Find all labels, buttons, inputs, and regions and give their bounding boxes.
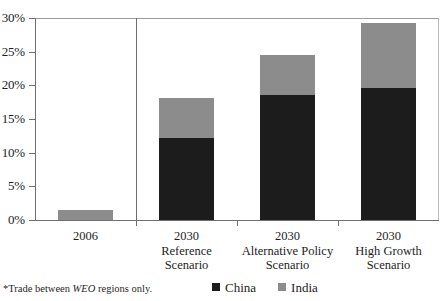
- x-axis-category-label: 2030High GrowthScenario: [323, 229, 446, 273]
- bar-segment-china: [260, 95, 315, 220]
- y-axis-label: 20%: [0, 78, 25, 91]
- bar-3: [361, 23, 416, 220]
- scenario-divider: [136, 18, 137, 220]
- legend-swatch-india: [278, 283, 286, 291]
- x-axis-tick: [338, 220, 339, 226]
- legend-label-china: China: [225, 281, 256, 294]
- y-axis-tick: [29, 18, 35, 19]
- y-axis-label: 0%: [0, 213, 25, 226]
- legend-item-india: India: [278, 281, 318, 294]
- bar-2: [260, 55, 315, 220]
- bar-segment-india: [260, 55, 315, 95]
- x-category-line: 2030: [275, 229, 300, 243]
- footnote-suffix: regions only.: [95, 283, 152, 294]
- x-axis-tick: [136, 220, 137, 226]
- y-axis-tick: [29, 153, 35, 154]
- bar-segment-china: [361, 88, 416, 220]
- footnote: *Trade between WEO regions only.: [3, 283, 152, 295]
- bar-segment-india: [58, 210, 113, 220]
- chart-figure: 0%5%10%15%20%25%30% 20062030ReferenceSce…: [0, 0, 446, 301]
- legend-item-china: China: [212, 281, 256, 294]
- bar-segment-india: [159, 98, 214, 138]
- y-axis-label: 15%: [0, 112, 25, 125]
- plot-right-rule: [438, 18, 439, 220]
- y-axis-tick: [29, 220, 35, 221]
- y-axis-tick: [29, 85, 35, 86]
- x-category-line: 2030: [376, 229, 401, 243]
- y-axis-tick: [29, 186, 35, 187]
- bar-1: [159, 98, 214, 220]
- legend-swatch-china: [212, 283, 220, 291]
- x-category-line: Scenario: [323, 258, 446, 273]
- x-category-line: 2006: [73, 229, 98, 243]
- legend-label-india: India: [291, 281, 318, 294]
- plot-area: 0%5%10%15%20%25%30%: [35, 18, 439, 220]
- bar-segment-india: [361, 23, 416, 88]
- bar-0: [58, 210, 113, 220]
- footnote-italic-term: WEO: [73, 283, 96, 294]
- x-category-line: High Growth: [323, 244, 446, 259]
- y-axis-label: 25%: [0, 45, 25, 58]
- y-axis-label: 10%: [0, 146, 25, 159]
- bar-segment-china: [159, 138, 214, 220]
- y-axis-tick: [29, 52, 35, 53]
- chart-legend: China India: [212, 279, 318, 295]
- x-category-line: 2030: [174, 229, 199, 243]
- footnote-prefix: *Trade between: [3, 283, 73, 294]
- y-axis-label: 5%: [0, 179, 25, 192]
- plot-top-rule: [35, 18, 439, 19]
- y-axis-tick: [29, 119, 35, 120]
- clipped-title: [0, 0, 446, 2]
- y-axis-line: [35, 18, 36, 220]
- y-axis-label: 30%: [0, 11, 25, 24]
- x-axis-tick: [237, 220, 238, 226]
